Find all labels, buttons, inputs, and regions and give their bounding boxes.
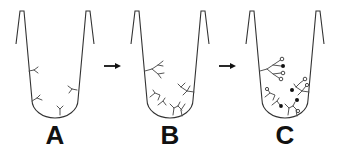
arrow-b-to-c [219,63,236,69]
branched-antibody-icon [145,61,194,116]
tube-a [16,11,94,118]
arrow-a-to-b [104,63,121,69]
tube-b [131,11,209,118]
antibody-icon [29,67,77,115]
tube-c [246,11,324,118]
panel-label-a: A [35,122,75,148]
labeled-branched-antibody-icon [260,57,309,116]
panel-label-b: B [150,122,190,148]
panel-label-c: C [265,122,305,148]
